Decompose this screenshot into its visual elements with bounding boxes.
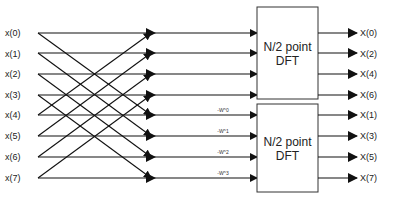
input-label: x(7)	[5, 173, 21, 183]
block-input-lines	[155, 33, 257, 178]
input-label: x(6)	[5, 152, 21, 162]
fft-butterfly-diagram: x(0) x(1) x(2) x(3) x(4) x(5) x(6) x(7)	[0, 0, 395, 201]
input-label: x(0)	[5, 28, 21, 38]
input-labels: x(0) x(1) x(2) x(3) x(4) x(5) x(6) x(7)	[5, 28, 21, 183]
dft-block-odd: N/2 point DFT	[257, 104, 318, 192]
output-label: X(7)	[360, 173, 377, 183]
block-title-line2: DFT	[276, 54, 300, 68]
output-label: X(4)	[360, 69, 377, 79]
twiddle-label: -W^0	[217, 107, 229, 113]
twiddle-label: -W^1	[217, 128, 229, 134]
output-label: X(2)	[360, 49, 377, 59]
dft-block-even: N/2 point DFT	[257, 7, 318, 99]
twiddle-labels: -W^0 -W^1 -W^2 -W^3	[217, 107, 229, 176]
output-labels: X(0) X(2) X(4) X(6) X(1) X(3) X(5) X(7)	[360, 28, 377, 183]
input-label: x(3)	[5, 90, 21, 100]
output-label: X(6)	[360, 90, 377, 100]
output-label: X(0)	[360, 28, 377, 38]
twiddle-label: -W^2	[217, 149, 229, 155]
output-label: X(1)	[360, 110, 377, 120]
output-label: X(5)	[360, 152, 377, 162]
block-title-line1: N/2 point	[263, 40, 312, 54]
output-label: X(3)	[360, 131, 377, 141]
block-title-line2: DFT	[276, 149, 300, 163]
input-label: x(1)	[5, 49, 21, 59]
input-label: x(4)	[5, 110, 21, 120]
block-title-line1: N/2 point	[263, 135, 312, 149]
input-label: x(5)	[5, 131, 21, 141]
output-arrows	[318, 33, 357, 178]
twiddle-label: -W^3	[217, 170, 229, 176]
input-label: x(2)	[5, 69, 21, 79]
butterfly-diagonals	[38, 33, 151, 178]
